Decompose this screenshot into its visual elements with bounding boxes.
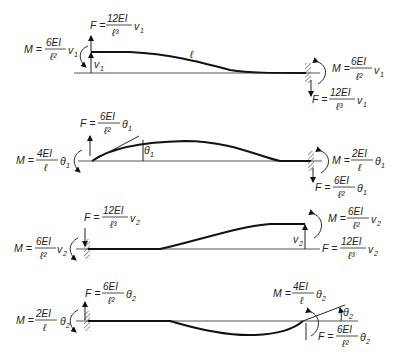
right-force-formula: F = 12EI ℓ³ v 2: [322, 236, 378, 261]
left-force-formula: F = 12EI ℓ³ v 2: [84, 205, 140, 230]
svg-text:ℓ³: ℓ³: [109, 219, 117, 230]
svg-text:6EI: 6EI: [348, 206, 363, 217]
svg-text:2: 2: [65, 322, 70, 329]
svg-text:6EI: 6EI: [46, 37, 61, 48]
svg-text:ℓ: ℓ: [43, 162, 48, 173]
svg-text:1: 1: [74, 51, 78, 58]
left-moment-formula: M = 6EI ℓ² v 2: [14, 236, 67, 261]
svg-text:1: 1: [363, 189, 367, 196]
deflected-beam: [91, 52, 306, 73]
svg-text:4EI: 4EI: [293, 281, 308, 292]
angle-arrow: [340, 308, 341, 321]
length-label: ℓ: [189, 48, 194, 60]
svg-text:ℓ³: ℓ³: [111, 27, 119, 38]
svg-text:M =: M =: [14, 242, 32, 254]
case-v2: v 2 F = 12EI ℓ³ v 2 M = 6EI ℓ² v 2 M = 6…: [14, 205, 381, 261]
svg-text:ℓ²: ℓ²: [103, 125, 111, 136]
svg-text:ℓ³: ℓ³: [335, 101, 343, 112]
svg-text:F =: F =: [322, 242, 337, 254]
svg-text:F =: F =: [312, 93, 327, 105]
svg-text:6EI: 6EI: [351, 56, 366, 67]
svg-text:2: 2: [321, 295, 326, 302]
svg-text:2: 2: [348, 313, 353, 320]
svg-text:ℓ²: ℓ²: [337, 189, 345, 200]
left-force-formula: F = 6EI ℓ² θ 1: [80, 111, 132, 136]
case-theta2: θ 2 F = 6EI ℓ² θ 2 M = 2EI ℓ θ 2 M = 4EI…: [16, 281, 370, 349]
svg-text:F =: F =: [315, 181, 330, 193]
svg-text:1: 1: [380, 71, 384, 78]
svg-text:1: 1: [381, 162, 385, 169]
svg-text:1: 1: [363, 101, 367, 108]
svg-text:ℓ²: ℓ²: [341, 338, 349, 349]
moment-arrow: [321, 151, 329, 173]
right-force-formula: F = 6EI ℓ² θ 2: [318, 324, 370, 349]
svg-text:2: 2: [135, 219, 140, 226]
right-force-formula: F = 6EI ℓ² θ 1: [315, 175, 367, 200]
tangent-line: [92, 136, 139, 161]
svg-text:12EI: 12EI: [330, 87, 351, 98]
svg-text:ℓ³: ℓ³: [347, 250, 355, 261]
svg-text:ℓ²: ℓ²: [352, 220, 360, 231]
svg-text:2: 2: [373, 250, 378, 257]
svg-text:F =: F =: [85, 287, 100, 299]
svg-text:2: 2: [62, 250, 67, 257]
svg-text:M =: M =: [328, 212, 346, 224]
right-moment-formula: M = 4EI ℓ θ 2: [273, 281, 326, 306]
tangent-line: [303, 305, 345, 321]
svg-text:1: 1: [140, 27, 144, 34]
left-moment-formula: M = 6EI ℓ² v 1: [24, 37, 78, 62]
svg-text:12EI: 12EI: [341, 236, 362, 247]
svg-text:ℓ²: ℓ²: [39, 250, 47, 261]
right-moment-formula: M = 2EI ℓ θ 1: [332, 148, 385, 173]
beam-stiffness-figure: ℓ v 1 F = 12EI ℓ³ v 1 M = 6EI ℓ² v 1 M =…: [0, 0, 396, 363]
svg-text:F =: F =: [84, 211, 99, 223]
svg-text:12EI: 12EI: [107, 13, 128, 24]
svg-text:M =: M =: [332, 62, 350, 74]
svg-text:F =: F =: [318, 330, 333, 342]
svg-text:M =: M =: [273, 287, 291, 299]
svg-text:ℓ: ℓ: [299, 295, 304, 306]
case-v1: ℓ v 1 F = 12EI ℓ³ v 1 M = 6EI ℓ² v 1 M =…: [24, 13, 384, 112]
svg-text:4EI: 4EI: [37, 148, 52, 159]
svg-text:2: 2: [365, 338, 370, 345]
svg-text:6EI: 6EI: [103, 281, 118, 292]
svg-text:1: 1: [100, 65, 104, 72]
svg-text:ℓ²: ℓ²: [49, 51, 57, 62]
right-moment-formula: M = 6EI ℓ² v 1: [332, 56, 384, 82]
deflected-beam: [88, 321, 303, 335]
svg-text:6EI: 6EI: [36, 236, 51, 247]
svg-text:6EI: 6EI: [100, 111, 115, 122]
moment-arrow: [314, 214, 322, 238]
left-moment-formula: M = 2EI ℓ θ 2: [16, 308, 70, 333]
svg-text:1: 1: [150, 151, 154, 158]
deflected-beam: [88, 224, 305, 249]
svg-text:M =: M =: [332, 154, 350, 166]
svg-text:ℓ: ℓ: [42, 322, 47, 333]
moment-arrow: [80, 46, 88, 67]
right-moment-formula: M = 6EI ℓ² v 2: [328, 206, 381, 231]
svg-text:ℓ²: ℓ²: [355, 71, 363, 82]
case-theta1: θ 1 F = 6EI ℓ² θ 1 M = 4EI ℓ θ 1 M = 2EI…: [16, 111, 385, 200]
svg-text:M =: M =: [24, 43, 42, 55]
svg-text:2: 2: [131, 295, 136, 302]
svg-text:1: 1: [66, 162, 70, 169]
svg-text:2EI: 2EI: [351, 148, 367, 159]
fixed-support: [305, 63, 311, 83]
svg-text:M =: M =: [16, 154, 34, 166]
svg-text:12EI: 12EI: [103, 205, 124, 216]
svg-text:2: 2: [376, 220, 381, 227]
svg-text:6EI: 6EI: [337, 324, 352, 335]
svg-text:F =: F =: [80, 117, 95, 129]
svg-text:ℓ: ℓ: [357, 162, 362, 173]
svg-text:1: 1: [128, 125, 132, 132]
svg-text:2EI: 2EI: [35, 308, 51, 319]
svg-text:ℓ²: ℓ²: [107, 295, 115, 306]
left-moment-formula: M = 4EI ℓ θ 1: [16, 148, 70, 173]
left-force-formula: F = 12EI ℓ³ v 1: [90, 13, 144, 38]
svg-text:F =: F =: [90, 19, 105, 31]
right-force-formula: F = 12EI ℓ³ v 1: [312, 87, 367, 112]
svg-text:M =: M =: [16, 314, 34, 326]
left-force-formula: F = 6EI ℓ² θ 2: [85, 281, 136, 306]
svg-text:2: 2: [298, 240, 303, 247]
svg-text:6EI: 6EI: [334, 175, 349, 186]
